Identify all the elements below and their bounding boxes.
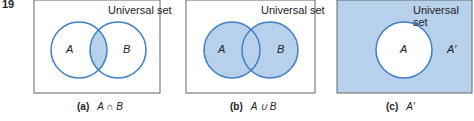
set-b-label: B [277,43,284,55]
caption-expression: A ∪ B [251,101,277,112]
set-a-label: A [66,43,73,55]
caption-b: (b)A ∪ B [230,101,276,112]
complement-label: A′ [447,43,456,55]
universal-set-label: Universal set [108,4,172,16]
caption-expression: A′ [406,101,415,112]
caption-tag: (b) [230,101,243,112]
universal-set-label: Universal set [413,4,474,28]
caption-c: (c)A′ [386,101,415,112]
caption-a: (a)A ∩ B [77,101,123,112]
caption-tag: (a) [77,101,89,112]
caption-tag: (c) [386,101,398,112]
universal-set-label: Universal set [261,4,325,16]
set-a-label: A [218,43,225,55]
caption-expression: A ∩ B [97,101,123,112]
set-a-label: A [400,43,407,55]
set-b-label: B [123,43,130,55]
